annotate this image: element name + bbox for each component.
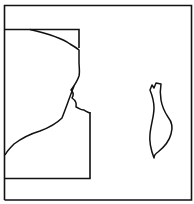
map-canvas — [0, 0, 194, 204]
outer-frame — [5, 6, 192, 201]
inset-frame — [5, 30, 90, 179]
mainland-coastline — [30, 30, 90, 114]
map-drawing — [0, 0, 194, 204]
island-outline — [150, 83, 172, 158]
inland-boundary — [5, 86, 74, 155]
